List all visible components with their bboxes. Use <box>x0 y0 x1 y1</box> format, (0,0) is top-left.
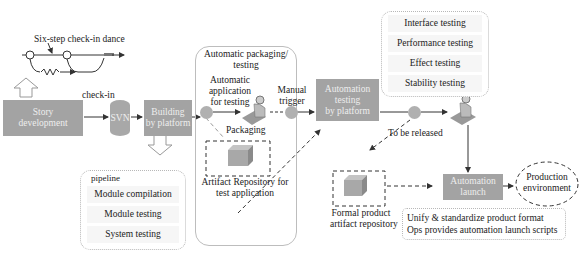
production-line1: Production <box>516 172 578 183</box>
packaging-group-title: Automatic packaging/ testing <box>197 49 295 71</box>
formal-artifact-box <box>333 171 385 206</box>
packaging-label: Packaging <box>226 125 266 136</box>
story-development-box: Story development <box>3 100 83 136</box>
notes-line1: Unify & standardize product format <box>407 212 561 224</box>
to-be-released-label: To be released <box>388 128 443 139</box>
testing-type: Stability testing <box>388 75 482 92</box>
title-line1: Automatic packaging/ <box>197 49 295 60</box>
auto-testing-line1: Automation <box>325 84 370 95</box>
test-repo-label: Artifact Repository for test application <box>196 177 294 199</box>
hollow-up-arrow <box>14 78 38 97</box>
story-line2: development <box>18 118 67 129</box>
repo-line2: test application <box>196 188 294 199</box>
launch-line2: launch <box>460 187 485 198</box>
testing-type: Interface testing <box>388 15 482 32</box>
cube-icon <box>344 175 367 196</box>
svn-label: SVN <box>108 113 132 124</box>
production-label: Production environment <box>516 172 578 194</box>
pipeline-item: Module testing <box>87 206 179 223</box>
auto-app-line1: Automatic <box>200 75 260 86</box>
six-step-diagram <box>22 43 124 75</box>
building-by-platform-box: Building by platform <box>144 100 192 136</box>
formal-repo-label: Formal product artifact repository <box>330 208 392 230</box>
building-line2: by platform <box>146 118 191 129</box>
automation-launch-box: Automation launch <box>443 174 503 200</box>
stage-node <box>200 106 213 119</box>
pipeline-item: System testing <box>87 226 179 243</box>
notes-panel: Unify & standardize product format Ops p… <box>402 208 566 240</box>
testing-type: Performance testing <box>388 35 482 52</box>
automation-testing-box: Automation testing by platform <box>316 79 379 121</box>
testing-type: Effect testing <box>388 55 482 72</box>
auto-app-label: Automatic application for testing <box>200 75 260 108</box>
testing-types-panel: Interface testing Performance testing Ef… <box>381 11 489 97</box>
pipeline-item: Module compilation <box>87 186 179 203</box>
story-line1: Story <box>33 107 54 118</box>
stage-node <box>285 106 298 119</box>
manual-line1: Manual <box>274 85 310 96</box>
formal-line2: artifact repository <box>330 219 392 230</box>
launch-line1: Automation <box>450 176 495 187</box>
check-in-label: check-in <box>82 90 115 101</box>
six-step-label: Six-step check-in dance <box>34 34 125 45</box>
repo-line1: Artifact Repository for <box>196 177 294 188</box>
pipeline-panel: pipeline Module compilation Module testi… <box>80 170 186 250</box>
auto-app-line2: application <box>200 86 260 97</box>
stage-node <box>408 106 421 119</box>
person-at-computer-icon <box>450 95 476 125</box>
notes-text: Unify & standardize product format Ops p… <box>403 209 565 239</box>
manual-trigger-label: Manual trigger <box>274 85 310 107</box>
auto-testing-line2: testing <box>335 95 360 106</box>
building-line1: Building <box>151 107 184 118</box>
auto-testing-line3: by platform <box>325 106 370 117</box>
title-line2: testing <box>197 60 295 71</box>
production-line2: environment <box>516 183 578 194</box>
pipeline-title: pipeline <box>91 173 185 183</box>
notes-line2: Ops provides automation launch scripts <box>407 224 561 236</box>
formal-line1: Formal product <box>330 208 392 219</box>
